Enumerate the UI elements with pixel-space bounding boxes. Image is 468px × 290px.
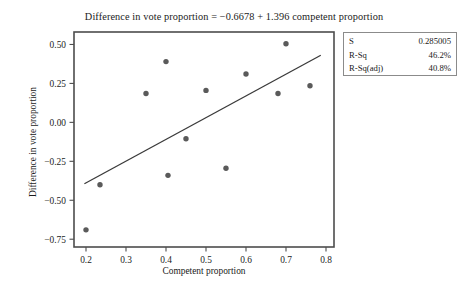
regression-fit-line: [84, 55, 320, 184]
x-tick-label: 0.8: [320, 255, 332, 265]
regression-stats-box: S0.285005R-Sq46.2%R-Sq(adj)40.8%: [343, 32, 457, 76]
stats-value: 46.2%: [429, 49, 451, 63]
data-point-marker: [183, 136, 188, 141]
y-tick-label: 0.25: [50, 79, 67, 89]
x-tick-label: 0.5: [200, 255, 212, 265]
x-tick-label: 0.4: [160, 255, 172, 265]
y-tick-label: 0.00: [50, 118, 67, 128]
y-tick-label: −0.75: [44, 235, 66, 245]
stats-key: R-Sq: [349, 49, 367, 63]
x-axis-label: Competent proportion: [0, 266, 408, 276]
data-point-marker: [223, 166, 228, 171]
stats-key: R-Sq(adj): [349, 62, 383, 76]
y-tick-label: 0.50: [50, 40, 67, 50]
x-tick-label: 0.7: [280, 255, 292, 265]
y-tick-label: −0.50: [44, 196, 66, 206]
stats-row: R-Sq46.2%: [349, 49, 451, 63]
data-point-marker: [275, 91, 280, 96]
x-tick-label: 0.2: [80, 255, 92, 265]
data-point-marker: [283, 41, 288, 46]
y-axis-label: Difference in vote proportion: [28, 32, 38, 252]
data-point-marker: [143, 91, 148, 96]
x-tick-label: 0.6: [240, 255, 252, 265]
stats-row: R-Sq(adj)40.8%: [349, 62, 451, 76]
data-point-marker: [97, 182, 102, 187]
stats-value: 0.285005: [418, 35, 451, 49]
stats-row: S0.285005: [349, 35, 451, 49]
data-point-marker: [307, 83, 312, 88]
data-point-marker: [163, 59, 168, 64]
x-tick-label: 0.3: [120, 255, 132, 265]
fitted-line-plot-figure: Difference in vote proportion = −0.6678 …: [0, 0, 468, 290]
data-point-marker: [165, 173, 170, 178]
stats-key: S: [349, 35, 354, 49]
data-point-marker: [83, 227, 88, 232]
data-point-marker: [203, 88, 208, 93]
y-tick-label: −0.25: [44, 157, 66, 167]
data-point-marker: [243, 71, 248, 76]
plot-frame: [74, 32, 334, 247]
stats-value: 40.8%: [429, 62, 451, 76]
